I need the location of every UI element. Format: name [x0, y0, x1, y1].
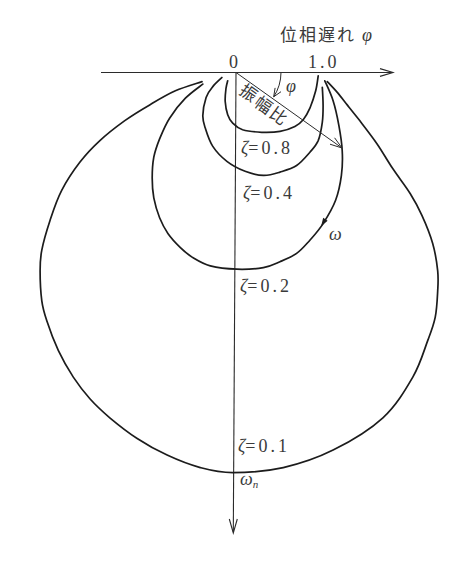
phase-lag-axis-title: 位相遅れ φ [280, 25, 372, 45]
zeta-label-0-2: ζ=0.2 [240, 276, 292, 296]
origin-tick-label: 0 [229, 52, 238, 72]
phase-lag-text: 位相遅れ [280, 25, 356, 45]
zeta-label-0-8: ζ=0.8 [241, 138, 293, 158]
unit-tick-label: 1.0 [308, 52, 340, 72]
phase-lag-symbol: φ [362, 25, 372, 45]
plot-background [0, 0, 459, 561]
vector-locus-plot: 振幅比 φ ω 位相遅れ φ 0 1.0 ζ=0.8 ζ=0.4 ζ=0.2 ζ… [0, 0, 459, 561]
zeta-label-0-1: ζ=0.1 [238, 436, 290, 456]
zeta-label-0-4: ζ=0.4 [243, 183, 295, 203]
phase-angle-label: φ [286, 76, 296, 96]
omega-label: ω [329, 224, 342, 244]
